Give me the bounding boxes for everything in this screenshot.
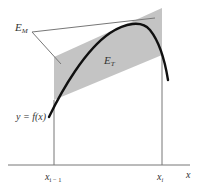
error-diagram: EM ET y = f(x) xi − 1 xi x (0, 0, 205, 189)
x-i-minus-1-sub: i − 1 (49, 176, 61, 183)
x-i-label: xi (157, 172, 163, 183)
x-axis-label: x (186, 170, 190, 180)
diagram-svg (0, 0, 205, 189)
em-label-sub: M (22, 27, 28, 35)
et-label: ET (104, 55, 115, 68)
em-label: EM (15, 22, 28, 35)
em-leader-line (32, 32, 61, 64)
et-label-main: E (104, 54, 111, 66)
x-i-sub: i (161, 176, 163, 183)
em-label-main: E (15, 21, 22, 33)
et-label-sub: T (111, 60, 115, 68)
x-i-minus-1-label: xi − 1 (45, 172, 61, 183)
curve-label: y = f(x) (16, 112, 46, 122)
